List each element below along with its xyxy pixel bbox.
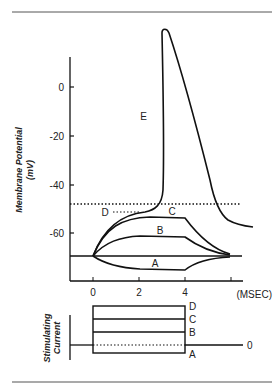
stim-zero-label: 0 [247,340,253,351]
x-tick-0: 0 [90,287,96,298]
figure-page: 0 -20 -40 -60 Membrane Potential (mV) 0 … [0,0,280,384]
y-axis-unit: (mV) [25,160,35,180]
curve-a [93,256,230,270]
y-tick-minus60: -60 [50,228,65,239]
curve-e-label: E [140,111,147,122]
x-tick-4: 4 [182,287,188,298]
y-tick-minus20: -20 [50,131,65,142]
curve-d-label: D [101,207,108,218]
stim-label-a: A [189,349,196,360]
membrane-potential-figure: 0 -20 -40 -60 Membrane Potential (mV) 0 … [0,0,280,384]
curve-b-label: B [157,225,164,236]
stim-label-b: B [189,327,196,338]
curve-a-label: A [152,258,159,269]
x-axis-unit: (MSEC) [236,289,272,300]
curve-b [93,236,230,256]
curve-c-label: C [168,206,175,217]
stim-axis-title: Stimulating [42,313,52,363]
stim-label-c: C [189,314,196,325]
y-tick-minus40: -40 [50,180,65,191]
stim-label-d: D [189,301,196,312]
curve-e [162,29,253,227]
y-axis-title: Membrane Potential [14,127,24,213]
y-tick-0: 0 [58,82,64,93]
stim-pulse-box [93,306,185,353]
stim-axis-title-2: Current [52,321,62,355]
x-tick-2: 2 [136,287,142,298]
